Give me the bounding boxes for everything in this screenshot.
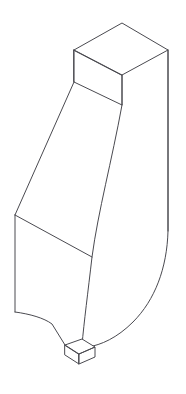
isometric-line-drawing	[0, 0, 186, 394]
drawing-canvas	[0, 0, 186, 394]
